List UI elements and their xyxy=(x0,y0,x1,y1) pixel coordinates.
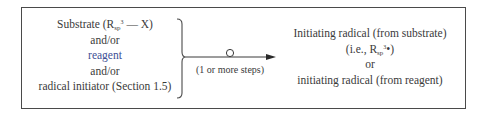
substrate-radical-line: Initiating radical (from substrate) xyxy=(290,26,450,42)
arrowhead-icon xyxy=(266,54,276,60)
radical-dot-text: •) xyxy=(386,43,394,55)
reagent-radical-line: initiating radical (from reagent) xyxy=(290,73,450,89)
circle-marker-icon xyxy=(226,49,233,56)
or-line: or xyxy=(290,57,450,73)
ie-text: (i.e., R xyxy=(346,43,377,55)
steps-label: (1 or more steps) xyxy=(196,64,264,75)
ie-radical-line: (i.e., Rsp3•) xyxy=(290,42,450,58)
right-brace-icon xyxy=(177,19,186,98)
products-block: Initiating radical (from substrate) (i.e… xyxy=(290,26,450,88)
